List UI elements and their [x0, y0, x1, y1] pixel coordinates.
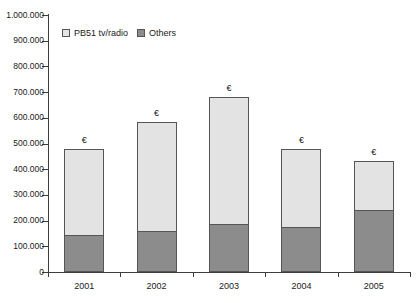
bar-annotation-euro-2005: €	[359, 148, 389, 157]
y-tick-label: 600.000	[0, 113, 44, 122]
bar-segment-others-2004	[281, 227, 321, 272]
bar-segment-pb51-2005	[354, 161, 394, 211]
bar-2004	[281, 149, 321, 272]
x-tick-label-2001: 2001	[59, 282, 109, 291]
bar-segment-pb51-2002	[137, 122, 177, 232]
bar-2005	[354, 161, 394, 272]
bar-annotation-euro-2003: €	[214, 84, 244, 93]
x-tick-mark	[120, 272, 121, 277]
y-tick-label: 100.000	[0, 242, 44, 251]
bar-segment-pb51-2004	[281, 149, 321, 228]
bar-2002	[137, 122, 177, 272]
x-tick-mark	[48, 272, 49, 277]
stacked-bar-chart: 0100.000200.000300.000400.000500.000600.…	[0, 0, 416, 303]
x-tick-mark	[410, 272, 411, 277]
bar-annotation-euro-2004: €	[286, 136, 316, 145]
legend: PB51 tv/radio Others	[62, 28, 176, 38]
x-axis-line	[48, 272, 411, 273]
y-tick-label: 800.000	[0, 62, 44, 71]
y-tick-label: 200.000	[0, 216, 44, 225]
x-tick-label-2002: 2002	[132, 282, 182, 291]
x-tick-label-2003: 2003	[204, 282, 254, 291]
y-tick-label: 1.000.000	[0, 11, 44, 20]
legend-swatch-icon-others	[137, 29, 145, 37]
legend-entry-pb51: PB51 tv/radio	[62, 28, 128, 38]
x-tick-label-2004: 2004	[276, 282, 326, 291]
bar-segment-others-2003	[209, 224, 249, 272]
bar-segment-pb51-2001	[64, 149, 104, 236]
y-tick-label: 0	[0, 268, 44, 277]
y-tick-label: 900.000	[0, 36, 44, 45]
bar-2003	[209, 97, 249, 272]
legend-label-others: Others	[149, 28, 176, 38]
x-tick-mark	[265, 272, 266, 277]
bar-segment-others-2002	[137, 231, 177, 272]
bar-segment-others-2005	[354, 210, 394, 272]
x-tick-mark	[338, 272, 339, 277]
bar-2001	[64, 149, 104, 272]
bar-annotation-euro-2002: €	[142, 109, 172, 118]
y-tick-label: 300.000	[0, 190, 44, 199]
legend-entry-others: Others	[137, 28, 176, 38]
x-tick-label-2005: 2005	[349, 282, 399, 291]
legend-swatch-icon-pb51	[62, 29, 70, 37]
y-tick-label: 400.000	[0, 165, 44, 174]
legend-label-pb51: PB51 tv/radio	[74, 28, 128, 38]
y-axis-line	[48, 14, 49, 273]
bar-segment-others-2001	[64, 235, 104, 272]
bar-annotation-euro-2001: €	[69, 136, 99, 145]
y-tick-label: 700.000	[0, 88, 44, 97]
x-tick-mark	[193, 272, 194, 277]
y-tick-label: 500.000	[0, 139, 44, 148]
bar-segment-pb51-2003	[209, 97, 249, 225]
